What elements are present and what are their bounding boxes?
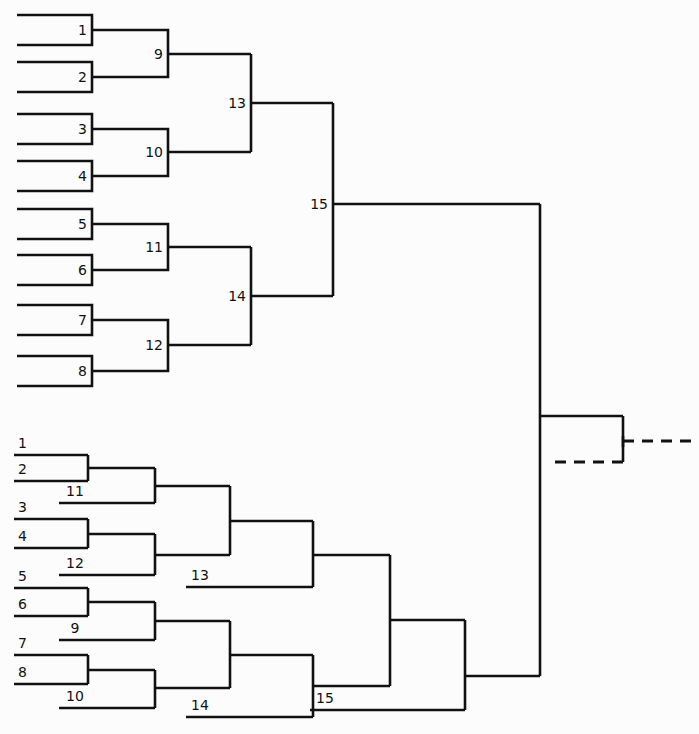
bottom-merge-node-14[interactable] <box>186 621 390 717</box>
bottom-merge-node-11[interactable] <box>59 455 230 503</box>
bottom-leaf-label-1: 1 <box>18 435 27 451</box>
bottom-node-label-14: 14 <box>191 697 209 713</box>
top-node-label-14: 14 <box>228 288 246 304</box>
bottom-node-label-10: 10 <box>66 688 84 704</box>
bottom-leaf-label-3: 3 <box>18 499 27 515</box>
top-leaf-label-7: 7 <box>78 312 87 328</box>
bottom-leaf-label-2: 2 <box>18 461 27 477</box>
bottom-merge-node-13[interactable] <box>186 486 390 587</box>
top-merge-node-13[interactable] <box>251 54 333 152</box>
top-node-label-15: 15 <box>310 196 328 212</box>
top-merge-node-9[interactable] <box>92 30 251 77</box>
top-leaf-label-6: 6 <box>78 262 87 278</box>
top-node-label-11: 11 <box>145 239 163 255</box>
top-node-label-13: 13 <box>228 95 246 111</box>
bottom-node-label-15: 15 <box>316 690 334 706</box>
bottom-leaf-label-4: 4 <box>18 528 27 544</box>
bottom-merge-node-9[interactable] <box>59 588 230 640</box>
top-node-label-12: 12 <box>145 337 163 353</box>
top-leaf-label-8: 8 <box>78 363 87 379</box>
top-merge-node-12[interactable] <box>92 320 251 371</box>
dendrogram-svg: 1 2 3 4 5 6 7 8 9 10 11 12 13 14 15 <box>0 0 699 734</box>
top-leaf-label-3: 3 <box>78 121 87 137</box>
dashed-continuation-group <box>555 416 699 462</box>
top-merge-node-15[interactable] <box>333 103 540 296</box>
top-merge-node-14[interactable] <box>251 247 333 345</box>
top-merge-node-10[interactable] <box>92 129 251 176</box>
top-leaf-label-2: 2 <box>78 69 87 85</box>
dendrogram-canvas: 1 2 3 4 5 6 7 8 9 10 11 12 13 14 15 <box>0 0 699 734</box>
bottom-leaf-label-6: 6 <box>18 596 27 612</box>
top-merge-node-11[interactable] <box>92 224 251 270</box>
bottom-tree-group: 1 2 3 4 5 6 7 8 11 12 9 10 13 14 15 <box>14 435 540 717</box>
bottom-leaf-label-5: 5 <box>18 568 27 584</box>
shared-trunk-group[interactable] <box>540 204 623 676</box>
top-node-label-10: 10 <box>145 144 163 160</box>
top-leaf-label-4: 4 <box>78 168 87 184</box>
bottom-node-label-11: 11 <box>66 483 84 499</box>
bottom-node-label-9: 9 <box>71 620 80 636</box>
bottom-leaf-label-7: 7 <box>18 635 27 651</box>
bottom-leaf-label-8: 8 <box>18 664 27 680</box>
top-leaf-label-1: 1 <box>78 22 87 38</box>
bottom-node-label-13: 13 <box>191 567 209 583</box>
bottom-node-label-12: 12 <box>66 555 84 571</box>
top-tree-group: 1 2 3 4 5 6 7 8 9 10 11 12 13 14 15 <box>17 15 540 386</box>
top-leaf-label-5: 5 <box>78 216 87 232</box>
top-node-label-9: 9 <box>154 46 163 62</box>
